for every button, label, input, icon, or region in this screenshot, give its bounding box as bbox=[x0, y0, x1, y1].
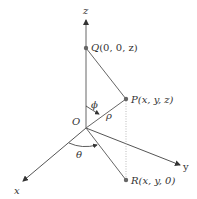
rho-label: ρ bbox=[105, 110, 112, 121]
x-axis-label: x bbox=[14, 185, 20, 196]
point-p bbox=[124, 97, 128, 101]
point-q bbox=[84, 46, 88, 50]
origin-label: O bbox=[72, 116, 80, 127]
theta-label: θ bbox=[76, 149, 82, 160]
p-label: P(x, y, z) bbox=[130, 94, 174, 105]
theta-arc bbox=[69, 143, 97, 147]
line-q-p bbox=[86, 48, 126, 99]
r-label: R(x, y, 0) bbox=[130, 175, 175, 186]
spherical-coordinates-diagram: z x y O Q(0, 0, z) P(x, y, z) R(x, y, 0)… bbox=[0, 0, 197, 199]
q-label: Q(0, 0, z) bbox=[91, 42, 138, 53]
y-axis-label: y bbox=[182, 161, 189, 172]
point-r bbox=[124, 178, 128, 182]
phi-label: ϕ bbox=[91, 99, 98, 110]
z-axis-label: z bbox=[82, 5, 89, 16]
